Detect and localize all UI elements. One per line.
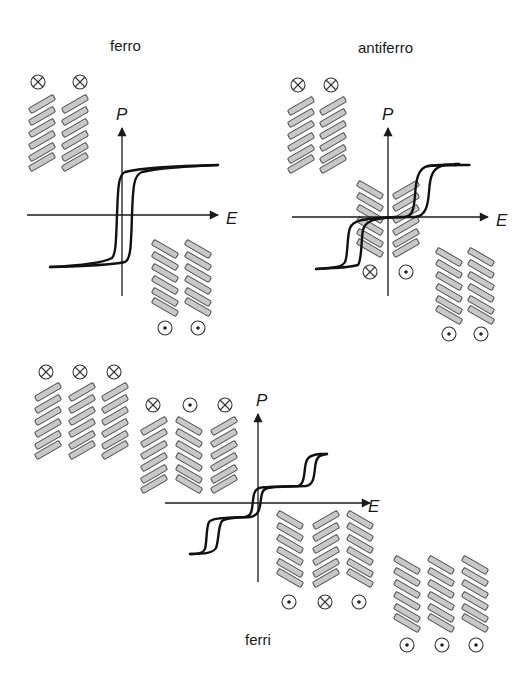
domain-stack-down xyxy=(175,416,202,493)
dot-icon xyxy=(183,398,197,412)
p-axis-label: P xyxy=(116,105,128,124)
cross-icon xyxy=(146,398,160,412)
p-axis-label: P xyxy=(256,391,268,410)
cross-icon xyxy=(73,365,87,379)
panel-title-ferri: ferri xyxy=(245,631,271,648)
domain-stack-up xyxy=(312,510,339,587)
dot-icon xyxy=(435,638,449,652)
domain-stack-down xyxy=(151,239,178,316)
cross-icon xyxy=(324,78,338,92)
domain-stack-up xyxy=(140,416,167,493)
domain-stack-down xyxy=(184,239,211,316)
domain-stack-up xyxy=(34,382,61,459)
p-axis-label: P xyxy=(382,105,394,124)
cross-icon xyxy=(291,78,305,92)
dot-icon xyxy=(442,327,456,341)
hysteresis-loop xyxy=(50,165,218,267)
dot-icon xyxy=(399,265,413,279)
dot-icon xyxy=(352,595,366,609)
domain-stack-up xyxy=(287,96,314,173)
domain-stack-down xyxy=(461,555,488,632)
panel-title-antiferro: antiferro xyxy=(358,39,413,56)
cross-icon xyxy=(218,398,232,412)
domain-stack-down xyxy=(427,555,454,632)
cross-icon xyxy=(73,75,87,89)
dot-icon xyxy=(158,321,172,335)
panel-ferro: ferro P E xyxy=(27,37,238,335)
panel-title-ferro: ferro xyxy=(110,37,141,54)
domain-stack-up xyxy=(319,96,346,173)
domain-stack-up xyxy=(210,416,237,493)
domain-stack-down xyxy=(276,510,303,587)
dot-icon xyxy=(191,321,205,335)
dot-icon xyxy=(474,327,488,341)
cross-icon xyxy=(107,365,121,379)
domain-stack-down xyxy=(346,510,373,587)
e-axis-label: E xyxy=(226,209,238,228)
dot-icon xyxy=(469,638,483,652)
polarization-hysteresis-diagram: ferro P E antiferro P E xyxy=(0,0,531,684)
dot-icon xyxy=(400,638,414,652)
dot-icon xyxy=(282,595,296,609)
domain-stack-up xyxy=(61,94,88,171)
domain-stack-up xyxy=(101,382,128,459)
cross-icon xyxy=(363,265,377,279)
e-axis-label: E xyxy=(496,211,508,230)
cross-icon xyxy=(318,595,332,609)
domain-stack-down xyxy=(435,247,462,324)
panel-antiferro: antiferro P E xyxy=(287,39,508,341)
cross-icon xyxy=(39,365,53,379)
cross-icon xyxy=(31,75,45,89)
e-axis-label: E xyxy=(368,497,380,516)
domain-stack-up xyxy=(68,382,95,459)
domain-stack-down xyxy=(393,555,420,632)
domain-stack-up xyxy=(28,94,55,171)
panel-ferri: P E ferri xyxy=(34,365,488,652)
domain-stack-down xyxy=(467,247,494,324)
